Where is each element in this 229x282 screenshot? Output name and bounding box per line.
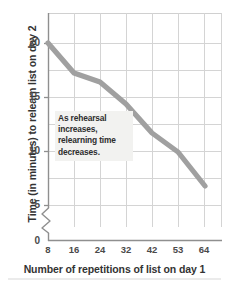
x-tick-label-8: 8 <box>35 245 61 255</box>
x-tick-label-32: 32 <box>113 245 139 255</box>
x-tick-label-24: 24 <box>87 245 113 255</box>
y-tick-label-10: 10 <box>18 146 40 156</box>
bottom-divider <box>8 278 221 280</box>
annotation-line-2: increases, <box>58 124 130 135</box>
y-tick-label-15: 15 <box>18 92 40 102</box>
annotation-line-1: As rehearsal <box>58 113 130 124</box>
x-tick-label-64: 64 <box>191 245 217 255</box>
y-tick-label-5: 5 <box>18 200 40 210</box>
x-tick-label-16: 16 <box>61 245 87 255</box>
y-axis-break-icon <box>42 208 50 233</box>
line-chart: Time (in minutes) to relearn list on day… <box>0 0 229 282</box>
x-tick-label-42: 42 <box>139 245 165 255</box>
x-axis-title: Number of repetitions of list on day 1 <box>0 263 229 275</box>
y-tick-marks <box>44 44 48 206</box>
y-tick-label-20: 20 <box>18 38 40 48</box>
annotation-line-3: relearning time <box>58 135 130 146</box>
x-tick-label-53: 53 <box>165 245 191 255</box>
chart-annotation: As rehearsal increases, relearning time … <box>55 111 133 161</box>
annotation-line-4: decreases. <box>58 147 130 158</box>
